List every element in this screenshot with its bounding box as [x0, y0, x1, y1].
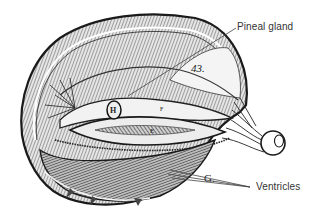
- plate-letter-h: H: [110, 106, 117, 115]
- ventricles-label: Ventricles: [256, 181, 300, 192]
- plate-number: 43.: [191, 62, 205, 74]
- plate-letter-e: E: [150, 127, 154, 135]
- eyeball: [261, 131, 285, 155]
- pineal-gland-label: Pineal gland: [237, 21, 293, 32]
